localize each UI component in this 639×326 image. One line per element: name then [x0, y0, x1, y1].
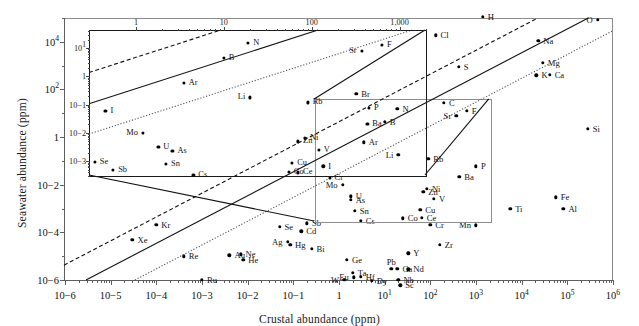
- inset-y-tick-minor: [88, 137, 90, 138]
- x-tick-label: 104: [515, 290, 529, 301]
- x-tick-minor: [106, 280, 107, 283]
- x-tick-minor: [224, 280, 225, 283]
- x-tick-minor: [426, 280, 427, 283]
- x-tick-minor: [315, 280, 316, 283]
- data-point: [474, 223, 477, 226]
- inset-x-tick-minor: [386, 29, 387, 31]
- data-point-label: Kr: [161, 220, 170, 229]
- x-tick-minor: [243, 280, 244, 283]
- inset-y-tick-minor: [88, 167, 90, 168]
- data-point-label: Re: [189, 252, 199, 261]
- inset-data-point-label: As: [177, 147, 186, 155]
- y-tick-minor: [62, 18, 65, 19]
- inset-x-tick-minor: [250, 29, 251, 31]
- inset-data-point: [141, 131, 144, 134]
- x-tick-major: [156, 280, 157, 285]
- x-tick-minor: [291, 280, 292, 283]
- x-tick-minor: [238, 280, 239, 283]
- x-tick-minor: [188, 280, 189, 283]
- inset-y-tick-minor: [88, 51, 90, 52]
- data-point-label: W: [331, 276, 339, 285]
- inset-data-point: [306, 101, 309, 104]
- data-point: [300, 230, 303, 233]
- inset-data-point: [380, 43, 383, 46]
- x-tick-minor: [517, 280, 518, 283]
- data-point-label: He: [248, 256, 258, 265]
- x-tick-minor: [178, 280, 179, 283]
- x-tick-minor: [490, 280, 491, 283]
- inset-x-tick-label: 1,000: [390, 18, 408, 27]
- inset-y-tick-label: 101: [64, 44, 86, 53]
- x-tick-minor: [184, 280, 185, 283]
- inset-x-tick-minor: [426, 29, 427, 31]
- inset-y-tick-minor: [88, 31, 90, 32]
- data-point-label: Eu: [339, 273, 349, 282]
- inset-y-tick-minor: [88, 88, 90, 89]
- data-point: [596, 18, 599, 21]
- y-tick-label: 10−4: [23, 227, 59, 238]
- inset-data-point: [287, 170, 290, 173]
- x-tick-major: [476, 280, 477, 285]
- x-tick-minor: [321, 280, 322, 283]
- x-tick-minor: [428, 280, 429, 283]
- x-tick-minor: [469, 280, 470, 283]
- inset-data-point: [296, 140, 299, 143]
- x-tick-major: [522, 280, 523, 285]
- x-tick-label: 105: [560, 290, 574, 301]
- chart-root: Seawater abundance (ppm) Crustal abundan…: [0, 0, 639, 326]
- x-tick-minor: [606, 280, 607, 283]
- data-point: [310, 247, 313, 250]
- inset-x-tick-minor: [292, 29, 293, 31]
- x-tick-minor: [417, 280, 418, 283]
- inset-data-point-label: Cr: [335, 174, 343, 182]
- x-tick-minor: [109, 280, 110, 283]
- inset-x-tick-minor: [338, 29, 339, 31]
- x-tick-major: [248, 280, 249, 285]
- inset-x-tick-minor: [396, 29, 397, 31]
- x-tick-minor: [275, 280, 276, 283]
- x-tick-minor: [289, 280, 290, 283]
- inset-y-tick-minor: [88, 57, 90, 58]
- x-tick-label: 10−4: [145, 290, 167, 301]
- data-point: [554, 195, 557, 198]
- inset-x-tick-minor: [178, 29, 179, 31]
- x-tick-minor: [170, 280, 171, 283]
- x-tick-minor: [508, 280, 509, 283]
- inset-y-tick-minor: [88, 170, 90, 171]
- x-tick-major: [613, 280, 614, 285]
- x-tick-minor: [325, 280, 326, 283]
- data-point: [288, 243, 291, 246]
- inset-data-point: [291, 161, 294, 164]
- x-tick-minor: [557, 280, 558, 283]
- inset-x-tick-minor: [210, 29, 211, 31]
- data-point: [390, 267, 393, 270]
- data-point: [305, 222, 308, 225]
- inset-data-point-label: F: [387, 41, 392, 49]
- inset-x-tick-minor: [373, 29, 374, 31]
- data-point-label: Nd: [413, 265, 424, 274]
- x-tick-minor: [609, 280, 610, 283]
- inset-x-tick-minor: [380, 29, 381, 31]
- y-tick-minor: [62, 113, 65, 114]
- data-point: [457, 65, 460, 68]
- data-point: [370, 279, 373, 282]
- x-tick-label: 10−6: [54, 290, 76, 301]
- y-tick-minor: [62, 66, 65, 67]
- x-tick-minor: [466, 280, 467, 283]
- data-point: [200, 278, 203, 281]
- inset-x-tick-minor: [298, 29, 299, 31]
- data-point-label: Na: [543, 37, 553, 46]
- inset-y-tick-label: 10−2: [64, 128, 86, 137]
- inset-x-tick-label: 10: [220, 18, 228, 27]
- data-point: [508, 207, 511, 210]
- x-tick-minor: [563, 280, 564, 283]
- inset-y-tick-minor: [88, 78, 90, 79]
- y-tick-label: 10−6: [23, 275, 59, 286]
- data-point: [182, 254, 185, 257]
- x-tick-minor: [101, 280, 102, 283]
- data-point-label: Fe: [561, 193, 570, 202]
- inset-x-tick: [312, 27, 313, 31]
- inset-x-tick: [224, 27, 225, 31]
- inset-y-tick-minor: [88, 113, 90, 114]
- x-tick-minor: [138, 280, 139, 283]
